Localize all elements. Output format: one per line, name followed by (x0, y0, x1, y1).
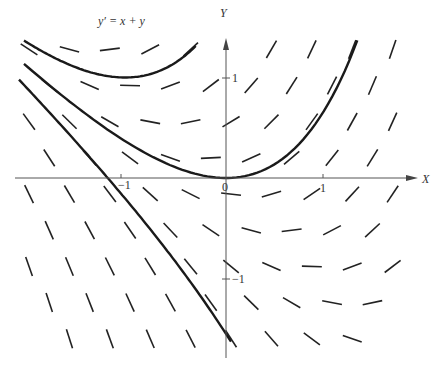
slope-segment (205, 295, 217, 311)
slope-segment (21, 44, 38, 55)
slope-segment (182, 190, 200, 199)
slope-segment (389, 113, 397, 131)
slope-segment (244, 296, 258, 310)
slope-segment (181, 120, 201, 124)
equation-label: y′ = x + y (97, 14, 145, 28)
slope-segment (60, 47, 79, 52)
slope-segment (264, 115, 278, 129)
x-axis-label: X (421, 172, 430, 186)
slope-segment (81, 82, 99, 90)
slope-segment (25, 185, 34, 203)
slope-segment (64, 186, 74, 203)
slope-segment (143, 187, 158, 200)
slope-segment (326, 150, 339, 166)
slope-segment (203, 80, 219, 92)
origin-label: 0 (222, 180, 228, 194)
slope-segment (282, 229, 302, 232)
slope-segment (186, 330, 195, 348)
slope-segment (363, 301, 383, 305)
y-tick-label-1: 1 (232, 71, 238, 85)
solution-curve-2 (24, 40, 357, 178)
slope-segment (302, 266, 322, 267)
slope-segment (141, 45, 159, 54)
slope-segment (85, 222, 95, 240)
y-axis-label: Y (220, 6, 228, 20)
slope-segment (323, 226, 341, 235)
slope-segment (262, 263, 280, 271)
slope-segment (346, 187, 360, 202)
slope-segment (104, 186, 116, 202)
x-axis-arrow-icon (406, 175, 418, 181)
slope-segment (367, 149, 378, 166)
slope-segment (140, 120, 160, 124)
slope-segment (23, 114, 35, 130)
slope-segment (66, 329, 72, 348)
slope-segment (266, 41, 276, 58)
slope-field (21, 40, 401, 348)
slope-segment (145, 258, 156, 275)
slope-segment (262, 191, 281, 197)
slope-segment (26, 257, 33, 276)
slope-segment (124, 222, 135, 239)
slope-segment (161, 82, 180, 89)
slope-segment (101, 117, 118, 127)
slope-segment (184, 259, 197, 275)
slope-segment (146, 330, 154, 348)
solution-curve-1 (24, 41, 196, 78)
slope-segment (389, 40, 396, 59)
slope-segment (286, 77, 297, 94)
slope-segment (201, 157, 221, 158)
slope-segment (105, 258, 114, 276)
slope-segment (62, 115, 76, 129)
slope-segment (365, 224, 380, 238)
slope-segment (106, 329, 113, 348)
direction-field-figure: y′ = x + y X Y 0 −1 1 1 −1 (0, 0, 440, 372)
slope-segment (369, 76, 377, 94)
solution-curve-3 (19, 80, 231, 342)
slope-segment (322, 301, 342, 305)
slope-segment (226, 330, 237, 347)
slope-segment (164, 223, 178, 238)
slope-segment (66, 257, 74, 276)
slope-segment (284, 151, 299, 164)
x-tick-label-neg1: −1 (118, 178, 131, 192)
slope-segment (44, 150, 55, 167)
y-axis-arrow-icon (223, 38, 229, 50)
slope-segment (343, 336, 362, 343)
slope-segment (387, 186, 398, 203)
slope-segment (242, 154, 260, 162)
slope-segment (265, 331, 278, 346)
slope-segment (385, 260, 401, 272)
slope-segment (122, 152, 138, 164)
slope-segment (120, 85, 140, 86)
solution-curves (19, 40, 357, 341)
slope-segment (46, 293, 52, 312)
slope-segment (343, 263, 362, 270)
slope-segment (126, 294, 134, 312)
slope-segment (100, 48, 120, 51)
slope-segment (308, 40, 317, 58)
slope-segment (86, 293, 93, 312)
y-tick-label-neg1: −1 (232, 272, 245, 286)
slope-segment (304, 333, 320, 345)
slope-segment (203, 225, 220, 236)
x-tick-label-1: 1 (320, 181, 326, 195)
slope-segment (304, 188, 321, 199)
slope-segment (166, 294, 176, 311)
slope-segment (347, 113, 357, 131)
slope-segment (242, 228, 261, 233)
slope-segment (283, 298, 300, 308)
slope-segment (161, 155, 180, 162)
slope-segment (245, 78, 258, 93)
slope-segment (223, 117, 240, 127)
slope-segment (45, 221, 53, 239)
plot-canvas: y′ = x + y X Y 0 −1 1 1 −1 (0, 0, 440, 372)
